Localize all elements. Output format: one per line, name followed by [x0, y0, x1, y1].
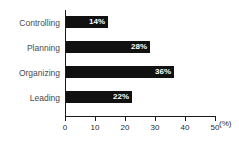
x-axis-tick-40	[185, 116, 186, 121]
x-axis-tick-30	[155, 116, 156, 121]
bar-value-label: 36%	[155, 66, 171, 78]
x-axis-tick-label: 10	[85, 123, 105, 132]
x-axis-tick-50	[215, 116, 216, 121]
x-axis-unit-label: (%)	[219, 119, 231, 128]
x-axis-tick-label: 30	[145, 123, 165, 132]
x-axis-tick-10	[95, 116, 96, 121]
category-label-organizing: Organizing	[0, 68, 60, 78]
bar-chart: 0 10 20 30 40 50 (%) Controlling Plannin…	[0, 0, 239, 154]
bar-value-label: 22%	[113, 91, 129, 103]
bar-leading: 22%	[66, 91, 132, 103]
category-label-leading: Leading	[0, 93, 60, 103]
x-axis-tick-label: 40	[175, 123, 195, 132]
x-axis-tick-20	[125, 116, 126, 121]
x-axis-tick-label: 20	[115, 123, 135, 132]
x-axis-tick-label: 0	[55, 123, 75, 132]
category-label-controlling: Controlling	[0, 18, 60, 28]
category-label-planning: Planning	[0, 43, 60, 53]
bar-value-label: 14%	[89, 16, 105, 28]
bar-controlling: 14%	[66, 16, 108, 28]
bar-organizing: 36%	[66, 66, 174, 78]
bar-planning: 28%	[66, 41, 150, 53]
x-axis-tick-0	[65, 116, 66, 121]
bar-value-label: 28%	[131, 41, 147, 53]
x-axis-line	[65, 116, 216, 117]
